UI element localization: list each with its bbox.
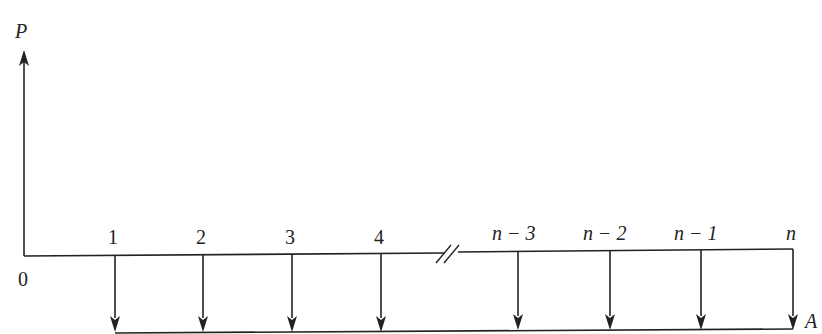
period-arrow-n-3 bbox=[513, 252, 523, 330]
period-label: n − 2 bbox=[583, 222, 627, 244]
annuity-label: A bbox=[803, 310, 818, 332]
period-arrow-1 bbox=[110, 256, 120, 332]
period-label: 1 bbox=[108, 226, 118, 248]
arrow-down-icon bbox=[287, 316, 297, 332]
arrow-down-icon bbox=[513, 314, 523, 330]
present-value-arrow bbox=[19, 50, 29, 256]
period-arrow-n-2 bbox=[605, 251, 615, 330]
period-label: 3 bbox=[285, 226, 295, 248]
period-arrow-4 bbox=[376, 254, 386, 332]
arrow-down-icon bbox=[696, 314, 706, 330]
annuity-baseline bbox=[115, 329, 793, 333]
time-axis bbox=[24, 245, 798, 330]
arrow-down-icon bbox=[110, 316, 120, 332]
period-arrow-n-1 bbox=[696, 250, 706, 330]
period-arrow-2 bbox=[198, 255, 208, 332]
period-label: 4 bbox=[374, 226, 384, 248]
period-label: n − 3 bbox=[492, 222, 536, 244]
period-label: n − 1 bbox=[674, 222, 718, 244]
present-value-label: P bbox=[14, 20, 27, 42]
origin-label: 0 bbox=[18, 268, 28, 290]
cash-flow-diagram: P 0 1 2 3 4 n − 3 n − 2 n − 1 n A bbox=[0, 0, 822, 334]
arrow-down-icon bbox=[376, 316, 386, 332]
arrow-down-icon bbox=[605, 314, 615, 330]
annuity-arrows bbox=[110, 250, 706, 332]
period-arrow-3 bbox=[287, 254, 297, 332]
arrow-down-icon bbox=[198, 316, 208, 332]
period-label: 2 bbox=[196, 226, 206, 248]
period-label: n bbox=[786, 222, 796, 244]
axis-break-marker bbox=[436, 245, 459, 263]
